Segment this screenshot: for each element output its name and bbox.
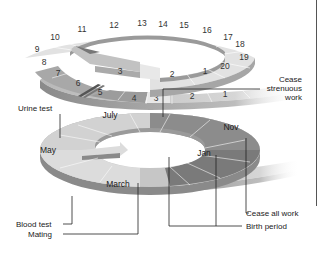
- label-cease-strenuous-work: Cease strenuous work: [250, 75, 302, 102]
- label-blood-test: Blood test: [16, 220, 52, 229]
- svg-text:10: 10: [50, 32, 60, 42]
- svg-text:7: 7: [56, 68, 61, 78]
- svg-text:8: 8: [42, 57, 47, 67]
- svg-text:16: 16: [202, 25, 212, 35]
- svg-text:15: 15: [179, 20, 189, 30]
- svg-text:1: 1: [223, 89, 228, 99]
- spiral-calendar-diagram: July May March Nov Jan: [0, 0, 323, 259]
- svg-text:3: 3: [118, 66, 123, 76]
- label-mating: Mating: [28, 230, 52, 239]
- svg-text:17: 17: [223, 32, 233, 42]
- svg-text:14: 14: [158, 19, 168, 29]
- svg-text:19: 19: [239, 52, 249, 62]
- svg-text:18: 18: [235, 39, 245, 49]
- month-nov: Nov: [223, 122, 239, 132]
- label-cease-all-work: Cease all work: [246, 209, 298, 218]
- svg-text:4: 4: [132, 93, 137, 103]
- month-july: July: [102, 110, 118, 120]
- svg-text:20: 20: [220, 61, 230, 71]
- month-jan: Jan: [197, 148, 211, 158]
- svg-text:6: 6: [76, 78, 81, 88]
- svg-text:9: 9: [35, 44, 40, 54]
- svg-text:12: 12: [109, 20, 119, 30]
- svg-text:13: 13: [137, 18, 147, 28]
- frame-border-line: [316, 0, 317, 206]
- month-may: May: [40, 145, 57, 155]
- label-urine-test: Urine test: [18, 104, 52, 113]
- label-birth-period: Birth period: [246, 222, 287, 231]
- lower-ring: July May March Nov Jan: [40, 110, 300, 195]
- svg-text:1: 1: [203, 66, 208, 76]
- month-march: March: [106, 179, 130, 189]
- svg-text:2: 2: [170, 69, 175, 79]
- svg-text:11: 11: [78, 24, 87, 34]
- svg-text:5: 5: [98, 87, 103, 97]
